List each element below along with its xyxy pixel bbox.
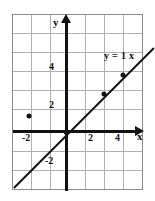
- gridline-vertical: [104, 15, 105, 189]
- gridline-vertical: [123, 15, 124, 189]
- equation-label: y = 1 x: [104, 51, 134, 61]
- gridline-horizontal: [13, 151, 142, 152]
- y-tick-label-2: 2: [49, 100, 54, 110]
- function-line: [13, 47, 155, 189]
- y-axis-arrow-icon: [61, 14, 71, 23]
- y-tick-label-neg2: -2: [45, 156, 53, 166]
- gridline-vertical: [31, 15, 32, 189]
- data-point: [102, 92, 107, 97]
- y-axis-label: y: [53, 17, 59, 28]
- gridline-horizontal: [13, 109, 142, 110]
- gridline-horizontal: [13, 90, 142, 91]
- y-tick-label-4: 4: [49, 62, 54, 72]
- x-tick-label-4: 4: [115, 133, 120, 143]
- data-point: [121, 73, 126, 78]
- coordinate-graph-figure: y x -2 2 4 4 2 -2 y = 1 x: [0, 0, 155, 201]
- x-tick-label-2: 2: [88, 133, 93, 143]
- y-axis: [65, 22, 68, 191]
- gridline-horizontal: [13, 33, 142, 34]
- data-point: [27, 114, 32, 119]
- gridline-vertical: [85, 15, 86, 189]
- x-axis-label: x: [137, 131, 143, 142]
- plot-frame: [12, 14, 143, 190]
- x-tick-label-neg2: -2: [22, 133, 30, 143]
